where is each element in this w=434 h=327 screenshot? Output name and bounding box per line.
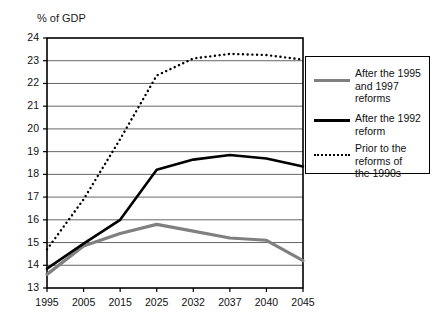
x-tick-label: 2025 <box>139 296 175 308</box>
x-tick-label: 2015 <box>102 296 138 308</box>
legend-swatch-gray-line-icon <box>314 79 350 82</box>
legend-label: After the 1992 reform <box>355 112 421 137</box>
legend-swatch-black-line-icon <box>314 119 350 122</box>
y-tick-label: 14 <box>19 259 39 270</box>
x-tick-label: 2005 <box>66 296 102 308</box>
series-lines <box>47 54 303 274</box>
x-tick-label: 2040 <box>248 296 284 308</box>
y-tick-label: 22 <box>19 77 39 88</box>
y-tick-label: 20 <box>19 123 39 134</box>
x-tick-label: 2037 <box>212 296 248 308</box>
y-tick-label: 21 <box>19 100 39 111</box>
y-tick-label: 15 <box>19 237 39 248</box>
x-tick-label: 2045 <box>285 296 321 308</box>
chart-figure: % of GDP 131415161718192021222324 199520… <box>0 0 434 327</box>
series-line <box>47 155 303 269</box>
x-tick-label: 2032 <box>175 296 211 308</box>
gridlines <box>47 61 303 266</box>
y-tick-label: 24 <box>19 32 39 43</box>
y-tick-label: 18 <box>19 168 39 179</box>
y-tick-label: 23 <box>19 55 39 66</box>
y-tick-label: 17 <box>19 191 39 202</box>
plot-frame <box>47 38 303 288</box>
series-line <box>47 224 303 274</box>
legend-label: Prior to the reforms of the 1990s <box>355 142 406 180</box>
x-tick-label: 1995 <box>29 296 65 308</box>
y-tick-label: 16 <box>19 214 39 225</box>
y-tick-label: 13 <box>19 282 39 293</box>
y-tick-label: 19 <box>19 146 39 157</box>
legend: After the 1995 and 1997 reforms After th… <box>305 56 430 174</box>
legend-label: After the 1995 and 1997 reforms <box>355 67 421 105</box>
legend-swatch-dotted-line-icon <box>314 154 350 156</box>
